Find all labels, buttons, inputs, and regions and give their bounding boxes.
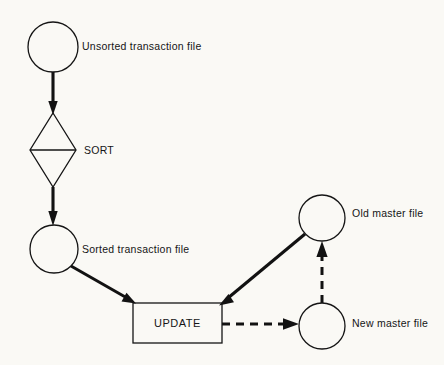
edge-sorted-to-update xyxy=(71,266,136,304)
edge-update-to-new-master xyxy=(222,318,299,330)
label-sorted-transaction-file: Sorted transaction file xyxy=(82,243,189,255)
flowchart-canvas: Unsorted transaction file SORT Sorted tr… xyxy=(0,0,444,365)
edge-old-master-to-update xyxy=(219,234,305,306)
label-sort: SORT xyxy=(84,144,114,156)
node-unsorted-transaction-file[interactable] xyxy=(28,22,78,72)
label-new-master-file: New master file xyxy=(352,317,428,329)
edge-sort-to-sorted xyxy=(48,187,57,226)
label-unsorted-transaction-file: Unsorted transaction file xyxy=(82,40,201,52)
node-new-master-file[interactable] xyxy=(299,303,345,349)
flowchart-svg xyxy=(0,0,444,365)
node-sort[interactable] xyxy=(30,113,76,187)
node-sorted-transaction-file[interactable] xyxy=(30,225,78,273)
label-update: UPDATE xyxy=(154,317,201,329)
label-old-master-file: Old master file xyxy=(352,207,423,219)
edge-new-master-to-old-master xyxy=(316,241,327,303)
edge-unsorted-to-sort xyxy=(48,72,57,115)
node-old-master-file[interactable] xyxy=(299,195,345,241)
